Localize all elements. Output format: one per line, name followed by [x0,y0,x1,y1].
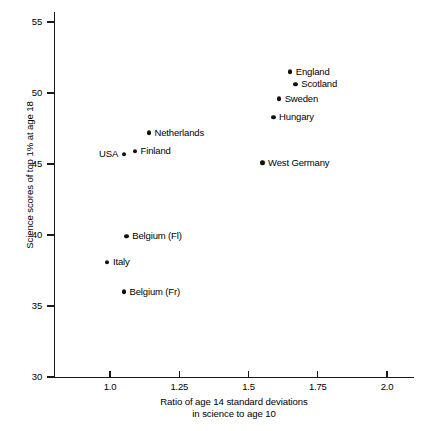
x-axis-title-line1: Ratio of age 14 standard deviations [160,396,307,407]
y-tick-label: 45 [2,159,42,169]
data-point: USA [99,149,126,159]
data-point-label: Sweden [285,94,318,104]
data-point: England [288,67,330,77]
x-tick-mark [248,371,249,378]
y-axis-title: Science scores of top 1% at age 18 [25,65,35,285]
data-point-marker [293,82,297,86]
data-point-label: Belgium (Fl) [132,232,181,242]
data-point-marker [271,115,275,119]
x-tick-mark [109,371,110,378]
scatter-plot: 303540455055 1.01.251.51.752.0 Science s… [0,0,425,431]
data-point-label: Netherlands [154,128,204,138]
data-point-marker [260,160,264,164]
y-tick-label: 40 [2,230,42,240]
x-axis-line [54,377,414,378]
data-point: Finland [133,146,171,156]
data-point-label: West Germany [268,158,329,168]
data-point: Scotland [293,80,337,90]
y-tick-label: 35 [2,301,42,311]
y-tick-label: 55 [2,17,42,27]
data-point: Belgium (Fr) [122,287,180,297]
x-tick-label: 1.75 [298,382,338,392]
x-axis-title: Ratio of age 14 standard deviations in s… [54,396,414,419]
y-tick-label: 30 [2,372,42,382]
x-axis-title-line2: in science to age 10 [192,408,275,419]
y-tick-mark [47,163,54,164]
data-point-marker [288,69,292,73]
x-tick-label: 1.0 [90,382,130,392]
x-tick-label: 1.5 [229,382,269,392]
data-point-marker [105,260,109,264]
data-point-marker [122,290,126,294]
y-tick-mark [47,376,54,377]
x-tick-mark [317,371,318,378]
data-point-marker [124,234,128,238]
data-point-marker [277,96,281,100]
x-tick-label: 1.25 [159,382,199,392]
y-tick-mark [47,305,54,306]
data-point-marker [147,131,151,135]
x-tick-mark [386,371,387,378]
data-point: Sweden [277,94,318,104]
data-point-marker [122,152,126,156]
x-tick-label: 2.0 [367,382,407,392]
y-tick-mark [47,21,54,22]
x-tick-mark [179,371,180,378]
data-point-label: Italy [113,257,130,267]
y-tick-label: 50 [2,88,42,98]
data-point: Hungary [271,112,314,122]
data-point-label: Scotland [301,80,337,90]
data-point: West Germany [260,158,329,168]
data-point-label: Belgium (Fr) [130,287,180,297]
data-point-label: USA [99,149,118,159]
y-tick-mark [47,234,54,235]
data-point-label: Finland [141,146,171,156]
data-point-label: England [296,67,330,77]
data-point: Italy [105,257,130,267]
data-point: Netherlands [147,128,204,138]
data-point-label: Hungary [279,112,314,122]
data-point-marker [133,149,137,153]
y-axis-line [54,12,55,378]
y-tick-mark [47,92,54,93]
data-point: Belgium (Fl) [124,232,181,242]
